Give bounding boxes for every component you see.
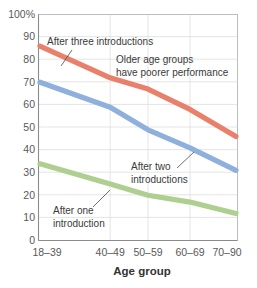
y-tick-0: 0 [29, 234, 35, 246]
x-axis-tick-labels: 18–39 40–49 50–59 60–69 70–90 [32, 246, 241, 258]
y-tick-20: 20 [23, 189, 35, 201]
y-tick-40: 40 [23, 143, 35, 155]
x-tick-70-90: 70–90 [212, 246, 241, 258]
y-axis-tick-labels: 100% 90 80 70 60 50 40 30 20 10 0 [8, 8, 35, 246]
y-tick-60: 60 [23, 98, 35, 110]
x-axis-title: Age group [113, 265, 171, 277]
y-tick-100: 100% [8, 8, 35, 20]
annotation-older-age-groups-line2: have poorer performance [116, 67, 229, 78]
x-tick-18-39: 18–39 [32, 246, 61, 258]
x-tick-50-59: 50–59 [133, 246, 162, 258]
annotation-older-age-groups-line1: Older age groups [116, 54, 193, 65]
x-tick-60-69: 60–69 [175, 246, 204, 258]
y-tick-90: 90 [23, 30, 35, 42]
annotation-after-one-line2: introduction [53, 218, 105, 229]
y-tick-50: 50 [23, 121, 35, 133]
y-tick-30: 30 [23, 166, 35, 178]
annotation-after-three-introductions: After three introductions [47, 36, 153, 47]
annotation-after-two-line1: After two [131, 161, 171, 172]
annotation-after-two-line2: introductions [131, 174, 188, 185]
y-tick-80: 80 [23, 53, 35, 65]
chart-canvas: 100% 90 80 70 60 50 40 30 20 10 0 18–39 … [0, 0, 257, 288]
line-chart: 100% 90 80 70 60 50 40 30 20 10 0 18–39 … [0, 0, 257, 288]
y-tick-70: 70 [23, 76, 35, 88]
x-tick-40-49: 40–49 [96, 246, 125, 258]
annotation-after-one-line1: After one [53, 205, 94, 216]
y-tick-10: 10 [23, 211, 35, 223]
